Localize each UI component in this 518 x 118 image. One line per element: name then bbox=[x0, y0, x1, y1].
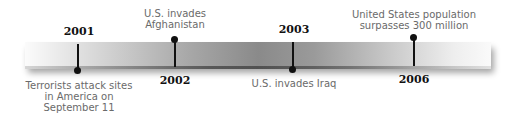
event-marker-dot bbox=[289, 66, 296, 73]
event-year: 2002 bbox=[160, 74, 191, 87]
event-year: 2001 bbox=[64, 25, 95, 38]
event-label: United States population surpasses 300 m… bbox=[352, 9, 476, 31]
event-label: U.S. invades Afghanistan bbox=[144, 8, 206, 30]
timeline-bar bbox=[25, 42, 491, 69]
event-marker-dot bbox=[74, 67, 81, 74]
event-label: U.S. invades Iraq bbox=[252, 78, 337, 89]
event-tick bbox=[413, 38, 415, 66]
event-label: Terrorists attack sites in America on Se… bbox=[26, 80, 133, 113]
event-year: 2006 bbox=[399, 73, 430, 86]
event-year: 2003 bbox=[279, 23, 310, 36]
timeline: 2001 Terrorists attack sites in America … bbox=[0, 0, 518, 118]
event-tick bbox=[174, 40, 176, 67]
